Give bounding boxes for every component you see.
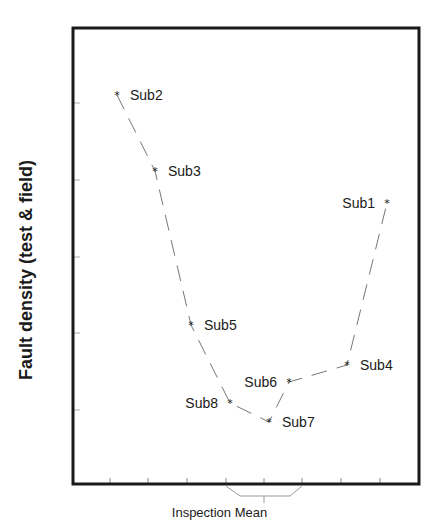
- y-axis-label: Fault density (test & field): [6, 100, 46, 440]
- point-label-sub1: Sub1: [342, 195, 375, 211]
- point-label-sub2: Sub2: [130, 87, 163, 103]
- point-label-sub4: Sub4: [360, 357, 393, 373]
- data-point-star-icon: *: [344, 359, 350, 372]
- data-point-star-icon: *: [266, 416, 272, 429]
- data-point-star-icon: *: [286, 376, 292, 389]
- point-label-sub3: Sub3: [168, 163, 201, 179]
- data-point-star-icon: *: [384, 197, 390, 210]
- point-label-sub8: Sub8: [185, 395, 218, 411]
- chart-canvas: ******** Sub2Sub3Sub5Sub8Sub7Sub6Sub4Sub…: [0, 0, 443, 529]
- data-line: [117, 95, 387, 422]
- axis-ticks: [73, 103, 380, 484]
- plot-frame: [73, 28, 419, 484]
- x-axis-bracket: [226, 486, 302, 503]
- data-point-star-icon: *: [188, 319, 194, 332]
- data-point-star-icon: *: [152, 165, 158, 178]
- x-axis-label: Inspection Mean: [0, 505, 441, 520]
- point-label-sub7: Sub7: [282, 414, 315, 430]
- point-label-sub5: Sub5: [204, 317, 237, 333]
- y-axis-label-text: Fault density (test & field): [16, 160, 37, 380]
- data-point-star-icon: *: [114, 89, 120, 102]
- point-label-sub6: Sub6: [244, 374, 277, 390]
- data-point-star-icon: *: [227, 397, 233, 410]
- fault-density-line: [117, 95, 387, 422]
- point-labels: Sub2Sub3Sub5Sub8Sub7Sub6Sub4Sub1: [130, 87, 393, 430]
